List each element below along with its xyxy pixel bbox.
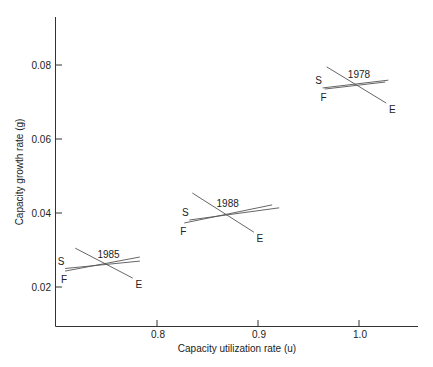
curve-label-e: E [389, 104, 396, 115]
curve-f [325, 82, 386, 89]
y-axis-title: Capacity growth rate (g) [14, 119, 25, 226]
y-tick-label: 0.08 [32, 60, 52, 71]
curve-label-e: E [257, 233, 264, 244]
y-tick-label: 0.02 [32, 282, 52, 293]
curve-label-f: F [321, 92, 327, 103]
curve-label-s: S [315, 75, 322, 86]
series-1978: 1978SFE [315, 67, 396, 115]
y-tick-label: 0.04 [32, 208, 52, 219]
year-label: 1985 [97, 249, 120, 260]
curve-s [189, 208, 279, 220]
curve-label-f: F [61, 274, 67, 285]
x-tick-label: 1.0 [353, 329, 367, 340]
series-layer: 1985SFE1988SFE1978SFE [58, 67, 396, 290]
x-tick-label: 0.8 [151, 329, 165, 340]
year-label: 1978 [348, 69, 371, 80]
year-label: 1988 [217, 198, 240, 209]
x-axis-ticks: 0.80.91.0 [151, 320, 367, 340]
series-1988: 1988SFE [180, 193, 279, 244]
scatter-chart: 0.80.91.0 0.020.040.060.08 1985SFE1988SF… [0, 0, 433, 367]
curve-s [323, 80, 389, 88]
x-axis-title: Capacity utilization rate (u) [178, 343, 296, 354]
curve-label-s: S [58, 256, 65, 267]
curve-label-f: F [180, 226, 186, 237]
curve-label-s: S [182, 207, 189, 218]
series-1985: 1985SFE [58, 248, 143, 290]
x-tick-label: 0.9 [252, 329, 266, 340]
curve-label-e: E [135, 279, 142, 290]
y-tick-label: 0.06 [32, 134, 52, 145]
plot-area: 0.80.91.0 0.020.040.060.08 1985SFE1988SF… [32, 17, 418, 340]
